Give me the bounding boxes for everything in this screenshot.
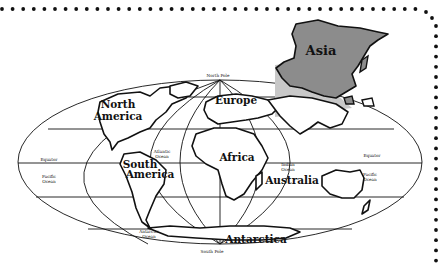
pacific-ocean-east-label-line2: Ocean [363,177,377,182]
world-map: North America South America Europe Afric… [0,0,440,266]
borneo-shape [362,98,374,106]
asia-highlight-shape [276,20,388,98]
southeast-asia-island-shape [344,96,354,104]
equator-left-label: Equator [40,157,57,162]
north-america-label-line1: North [101,98,136,110]
greenland-shape [170,82,198,98]
australia-label: Australia [264,174,319,186]
madagascar-shape [256,172,262,190]
north-pole-label: North Pole [207,73,230,78]
equator-right-label: Equator [363,153,380,158]
africa-label: Africa [218,151,254,163]
asia-label: Asia [305,43,337,58]
new-zealand-shape [362,200,370,214]
north-america-label-line2: America [93,110,143,122]
pacific-ocean-west-label-line2: Ocean [42,179,56,184]
antarctic-ocean-label-line2: Ocean [142,234,156,239]
indian-ocean-label-line2: Ocean [281,167,295,172]
australia-shape [322,170,364,198]
atlantic-ocean-label-line2: Ocean [155,154,169,159]
south-america-label-line2: America [125,168,175,180]
antarctica-label: Antarctica [224,233,287,245]
europe-label: Europe [215,94,258,106]
map-stage: North America South America Europe Afric… [0,0,440,266]
south-pole-label: South Pole [201,249,224,254]
